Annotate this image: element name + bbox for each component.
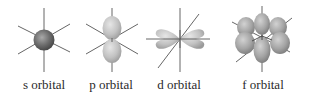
p-orbital-icon bbox=[86, 8, 138, 72]
d-orbital-label: d orbital bbox=[157, 77, 201, 93]
s-orbital-icon bbox=[18, 8, 70, 72]
p-orbital-label: p orbital bbox=[89, 77, 133, 93]
d-orbital-icon bbox=[146, 8, 210, 72]
f-orbital-label: f orbital bbox=[242, 77, 284, 93]
f-orbital-icon bbox=[232, 6, 292, 72]
s-orbital-label: s orbital bbox=[23, 77, 65, 93]
